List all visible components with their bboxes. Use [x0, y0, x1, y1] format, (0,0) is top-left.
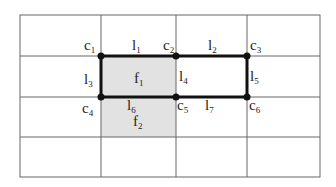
label-l1: l1: [132, 37, 141, 55]
label-l3: l3: [84, 71, 93, 89]
shaded-cell-f2: [101, 97, 176, 137]
label-l5: l5: [250, 68, 259, 86]
label-c4: c4: [82, 100, 94, 118]
label-l4: l4: [179, 68, 188, 86]
grid-diagram: c1 l1 c2 l2 c3 l3 f1 l4 l5 c4 l6 f2 c5 l…: [0, 0, 336, 187]
label-l2: l2: [208, 37, 217, 55]
label-l7: l7: [205, 97, 214, 115]
label-c1: c1: [84, 37, 95, 55]
label-c6: c6: [249, 97, 261, 115]
label-c3: c3: [250, 37, 262, 55]
label-c5: c5: [177, 97, 189, 115]
label-c2: c2: [163, 37, 174, 55]
